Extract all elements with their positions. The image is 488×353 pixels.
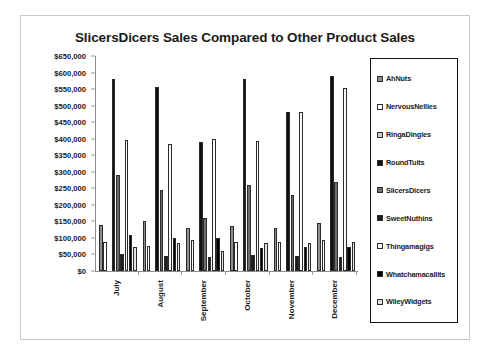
x-axis-labels: JulyAugustSeptemberOctoberNovemberDecemb… [95, 278, 357, 330]
bar [160, 190, 164, 271]
y-axis-tick-label: $250,000 [54, 184, 86, 193]
bar [274, 228, 278, 271]
plot-wrapper: $0$50,000$100,000$150,000$200,000$250,00… [33, 56, 363, 331]
bar [212, 139, 216, 271]
legend-item[interactable]: RoundTuits [377, 157, 453, 169]
bar [173, 238, 177, 271]
y-axis-tick-label: $200,000 [54, 200, 86, 209]
bar [299, 112, 303, 271]
bar [334, 182, 338, 271]
bar [125, 140, 129, 271]
bar [278, 242, 282, 271]
bar [291, 195, 295, 271]
legend-item[interactable]: Thingamagigs [377, 240, 453, 252]
x-axis-label-cell: November [270, 278, 314, 330]
legend-item-label: SlicersDicers [386, 186, 430, 195]
x-axis-tick-label-text: September [199, 280, 208, 321]
x-axis-label-cell: August [139, 278, 183, 330]
y-axis-tick-label: $0 [78, 267, 86, 276]
bar [308, 243, 312, 271]
legend-item[interactable]: AhNuts [377, 73, 453, 85]
y-axis-tick-label: $300,000 [54, 167, 86, 176]
bar-group [140, 56, 184, 271]
y-axis: $0$50,000$100,000$150,000$200,000$250,00… [33, 56, 91, 271]
x-axis-label-cell: July [95, 278, 139, 330]
bar [330, 76, 334, 271]
x-axis-label-cell: December [313, 278, 357, 330]
bar [164, 256, 168, 271]
bar [247, 185, 251, 271]
bar [304, 247, 308, 271]
legend-swatch-icon [377, 104, 383, 110]
bar [155, 87, 159, 271]
legend-item[interactable]: RingaDingies [377, 129, 453, 141]
x-axis-tick-label-text: December [330, 280, 339, 319]
bar [317, 223, 321, 271]
legend-swatch-icon [377, 160, 383, 166]
bar [352, 242, 356, 271]
bars-layer [96, 56, 358, 271]
bar [147, 246, 151, 271]
legend-item-label: AhNuts [386, 74, 411, 83]
legend-swatch-icon [377, 132, 383, 138]
legend-swatch-icon [377, 215, 383, 221]
legend-swatch-icon [377, 271, 383, 277]
bar [103, 242, 107, 271]
bar [234, 242, 238, 271]
legend-item-label: WileyWidgets [386, 297, 432, 306]
x-axis-tick-mark [182, 271, 226, 277]
chart-title: SlicersDicers Sales Compared to Other Pr… [21, 30, 469, 45]
x-axis-tick-label-text: August [156, 280, 165, 308]
y-axis-tick-label: $400,000 [54, 134, 86, 143]
bar [286, 112, 290, 271]
x-axis-tick-mark [139, 271, 183, 277]
bar [339, 257, 343, 271]
bar [208, 257, 212, 271]
legend-item-label: NervousNellies [386, 102, 437, 111]
y-axis-tick-label: $500,000 [54, 101, 86, 110]
y-axis-tick-label: $50,000 [59, 250, 86, 259]
bar [256, 141, 260, 271]
legend-swatch-icon [377, 187, 383, 193]
y-axis-tick-label: $650,000 [54, 52, 86, 61]
legend-swatch-icon [377, 243, 383, 249]
bar [186, 228, 190, 271]
legend-item[interactable]: SweetNuthins [377, 212, 453, 224]
bar-group [183, 56, 227, 271]
x-axis-ticks [95, 271, 357, 277]
y-axis-tick-label: $350,000 [54, 151, 86, 160]
x-axis-label-cell: October [226, 278, 270, 330]
bar [243, 79, 247, 271]
bar [230, 226, 234, 271]
bar-group [227, 56, 271, 271]
bar [343, 88, 347, 271]
x-axis-tick-mark [226, 271, 270, 277]
legend-item-label: SweetNuthins [386, 214, 432, 223]
x-axis-tick-label-text: July [112, 280, 121, 296]
legend-item-label: Whatchamacallits [386, 270, 445, 279]
bar [120, 254, 124, 271]
bar [203, 218, 207, 271]
bar [221, 251, 225, 272]
bar-group [96, 56, 140, 271]
x-axis-tick-mark [313, 271, 357, 277]
bar [191, 240, 195, 271]
legend-item[interactable]: SlicersDicers [377, 184, 453, 196]
bar [295, 256, 299, 271]
legend-item[interactable]: Whatchamacallits [377, 268, 453, 280]
bar [347, 247, 351, 271]
plot-area [95, 56, 358, 272]
x-axis-tick-label-text: October [243, 280, 252, 311]
bar-group [314, 56, 358, 271]
bar [112, 79, 116, 271]
bar [116, 175, 120, 271]
x-axis-tick-mark [95, 271, 139, 277]
x-axis-label-cell: September [182, 278, 226, 330]
x-axis-tick-mark [270, 271, 314, 277]
bar [216, 238, 220, 271]
legend-item[interactable]: NervousNellies [377, 101, 453, 113]
x-axis-tick-label-text: November [287, 280, 296, 319]
bar [260, 248, 264, 271]
legend-swatch-icon [377, 76, 383, 82]
legend-item[interactable]: WileyWidgets [377, 296, 453, 308]
